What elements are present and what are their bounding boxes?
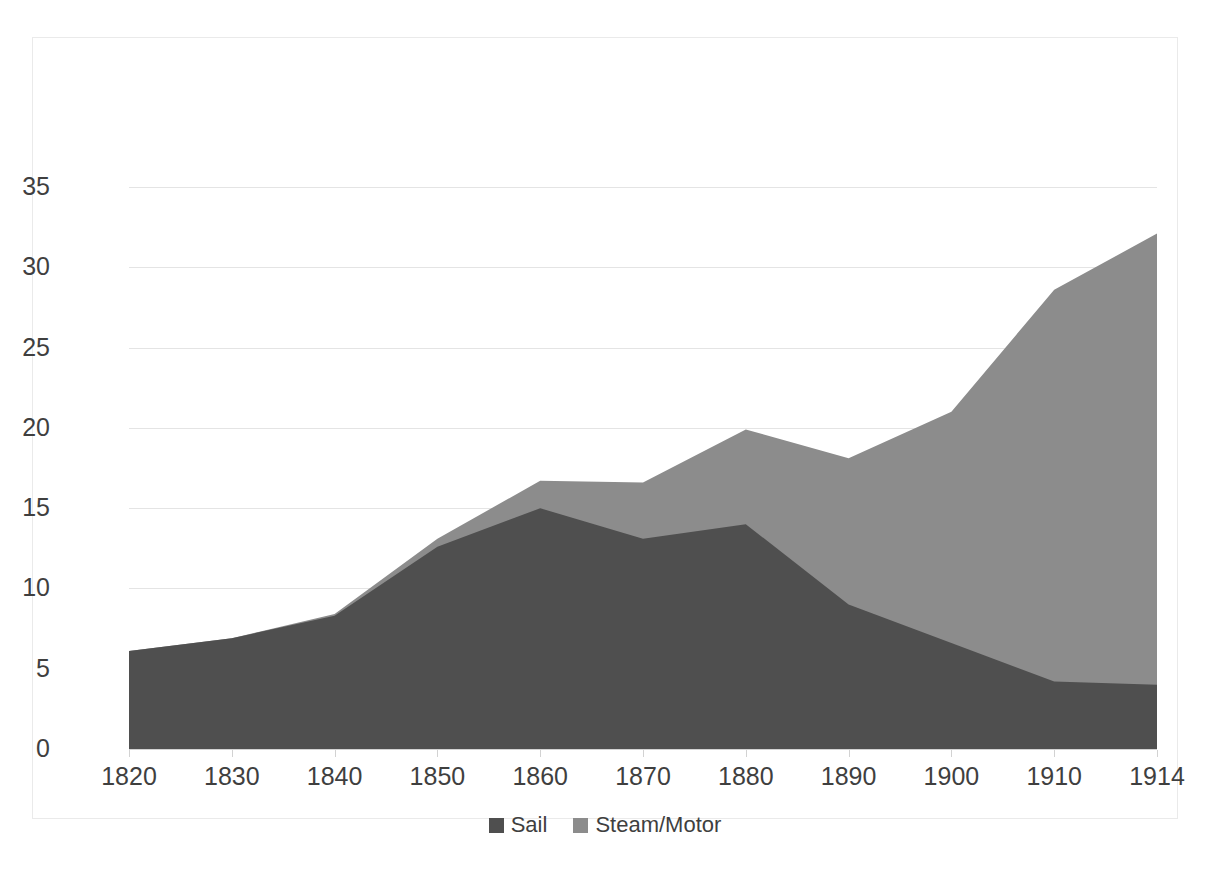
legend-label: Sail [511,814,548,836]
x-axis-tick-label: 1870 [615,762,671,790]
legend-item-steam-motor[interactable]: Steam/Motor [573,814,721,836]
y-axis-tick-label: 35 [22,174,50,199]
y-axis-tick-label: 25 [22,335,50,360]
x-axis-tick-label: 1914 [1129,762,1185,790]
x-axis-tick [643,750,644,757]
legend-label: Steam/Motor [595,814,721,836]
y-axis-tick-label: 20 [22,415,50,440]
x-axis-tick [129,750,130,757]
x-axis-tick-label: 1910 [1026,762,1082,790]
y-axis-tick-label: 5 [36,656,50,681]
x-axis-tick [540,750,541,757]
x-axis-tick [849,750,850,757]
area-chart-svg [129,187,1157,749]
x-axis-tick [746,750,747,757]
x-axis-tick [437,750,438,757]
chart-title [33,26,1177,38]
legend-swatch-icon [489,818,504,833]
x-axis-tick-label: 1850 [410,762,466,790]
chart-frame: 05101520253035 1820183018401850186018701… [32,37,1178,819]
x-axis-tick [951,750,952,757]
x-axis-tick [1157,750,1158,757]
plot-area [129,187,1157,749]
legend-swatch-icon [573,818,588,833]
chart-legend: SailSteam/Motor [33,814,1177,836]
y-axis-tick-label: 0 [36,736,50,761]
y-axis-tick-label: 10 [22,575,50,600]
x-axis-tick-label: 1840 [307,762,363,790]
x-axis-tick [335,750,336,757]
x-axis-tick-label: 1820 [101,762,157,790]
x-axis-tick-label: 1890 [821,762,877,790]
x-axis-tick-label: 1830 [204,762,260,790]
y-axis-tick-label: 15 [22,495,50,520]
x-axis-tick [232,750,233,757]
legend-item-sail[interactable]: Sail [489,814,548,836]
x-axis-tick-label: 1860 [512,762,568,790]
y-axis-tick-label: 30 [22,254,50,279]
x-axis-tick-label: 1900 [924,762,980,790]
x-axis-tick [1054,750,1055,757]
x-axis-tick-label: 1880 [718,762,774,790]
